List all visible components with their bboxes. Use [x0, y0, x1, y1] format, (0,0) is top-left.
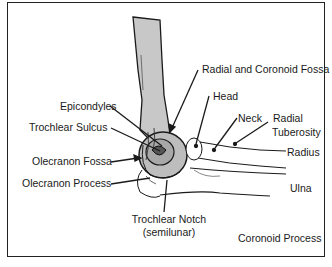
ulna-bone [190, 168, 286, 174]
label-trochlear-notch-line1: Trochlear Notch [125, 213, 213, 225]
label-radial-tuberosity-line2: Tuberosity [272, 126, 321, 138]
label-olecranon-process: Olecranon Process [22, 177, 111, 189]
label-epicondyles: Epicondyles [60, 100, 117, 112]
label-ulna: Ulna [290, 182, 312, 194]
label-radial-tuberosity-line1: Radial [273, 112, 303, 124]
humerus-bone [133, 17, 170, 140]
label-head: Head [213, 90, 238, 102]
label-neck: Neck [238, 112, 262, 124]
radial-head [186, 138, 202, 160]
label-trochlear-notch-line2: (semilunar) [125, 226, 213, 238]
label-trochlear-sulcus: Trochlear Sulcus [29, 121, 107, 133]
label-coronoid-process: Coronoid Process [238, 232, 321, 244]
label-radial-coronoid-fossa: Radial and Coronoid Fossa [202, 63, 329, 75]
label-olecranon-fossa: Olecranon Fossa [32, 155, 112, 167]
label-radius: Radius [287, 146, 320, 158]
